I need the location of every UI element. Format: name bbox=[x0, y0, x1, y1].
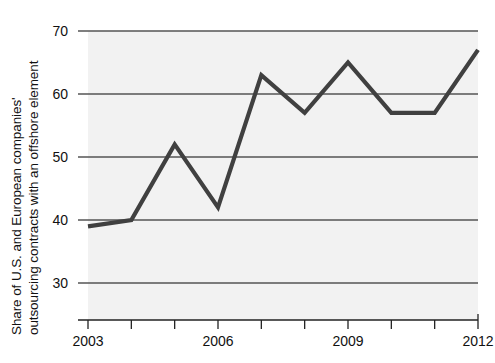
chart-container: Share of U.S. and European companies'out… bbox=[0, 0, 495, 363]
plot-area-background bbox=[88, 31, 478, 320]
chart-plot-svg bbox=[0, 0, 495, 363]
